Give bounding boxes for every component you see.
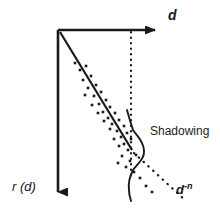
shadowing-annotation-label: Shadowing — [150, 125, 209, 137]
path-loss-exponent-text: -n — [184, 181, 193, 191]
path-loss-trend-line — [60, 32, 132, 150]
figure-container: d r (d) Shadowing d-n — [0, 0, 220, 220]
path-loss-base-text: d — [176, 182, 184, 197]
path-loss-exponent-label: d-n — [176, 182, 192, 196]
received-power-scatter-points — [74, 62, 154, 194]
y-axis-label: r (d) — [12, 180, 36, 193]
x-axis-label: d — [168, 8, 177, 22]
